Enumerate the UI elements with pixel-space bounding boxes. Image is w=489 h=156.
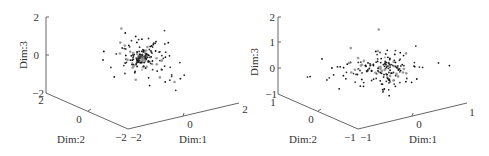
data-point xyxy=(386,67,388,69)
data-point xyxy=(383,69,386,72)
data-point xyxy=(179,62,181,64)
data-point xyxy=(129,51,132,54)
data-point xyxy=(147,60,149,62)
x-axis-label: Dim:1 xyxy=(179,133,207,145)
data-point xyxy=(124,32,126,34)
data-point xyxy=(398,69,400,71)
data-point xyxy=(422,67,424,69)
data-point xyxy=(359,70,361,72)
data-point xyxy=(375,51,377,53)
data-point xyxy=(380,62,382,64)
data-point xyxy=(384,65,386,67)
data-point xyxy=(419,66,421,68)
data-point xyxy=(355,74,357,76)
x-axis xyxy=(358,103,467,129)
data-point xyxy=(415,45,417,47)
data-point xyxy=(139,53,141,55)
data-point xyxy=(103,51,105,53)
data-point xyxy=(154,42,156,44)
y-axis xyxy=(278,94,358,129)
z-tick: 0 xyxy=(270,62,276,74)
data-point xyxy=(173,81,176,84)
data-point xyxy=(171,74,173,76)
x-axis-label: Dim:1 xyxy=(409,133,437,145)
data-point xyxy=(367,62,369,64)
data-point xyxy=(146,53,148,55)
data-point xyxy=(382,91,384,93)
data-point xyxy=(132,57,134,59)
data-point xyxy=(155,41,157,43)
data-point xyxy=(169,55,171,57)
data-point xyxy=(326,79,328,81)
data-point xyxy=(403,68,406,71)
data-point xyxy=(361,64,364,67)
data-point xyxy=(115,53,117,55)
data-point xyxy=(382,83,384,85)
data-point xyxy=(129,46,131,48)
data-point xyxy=(438,62,440,64)
data-point xyxy=(143,49,145,51)
data-point xyxy=(377,50,380,53)
y-tick: 0 xyxy=(76,113,82,125)
y-axis-label: Dim:2 xyxy=(289,133,317,145)
data-point xyxy=(388,89,390,91)
data-point xyxy=(139,62,141,64)
data-point xyxy=(373,78,375,80)
data-point xyxy=(148,54,150,56)
data-point xyxy=(169,66,171,68)
data-point xyxy=(389,69,391,71)
data-point xyxy=(331,67,333,69)
data-point xyxy=(125,55,127,57)
data-point xyxy=(152,46,154,48)
data-point xyxy=(113,76,115,78)
data-point xyxy=(380,72,382,74)
data-point xyxy=(357,62,359,64)
z-axis-label: Dim:3 xyxy=(248,47,260,76)
data-point xyxy=(123,65,125,67)
data-point xyxy=(136,66,138,68)
data-point xyxy=(145,59,147,61)
data-point xyxy=(333,74,335,76)
x-axis xyxy=(128,103,239,129)
data-point xyxy=(151,51,153,53)
y-tick: 1 xyxy=(270,96,276,108)
z-tick: 2 xyxy=(34,11,40,23)
data-point xyxy=(399,71,401,73)
data-point xyxy=(379,80,381,82)
data-point xyxy=(123,44,126,47)
x-tick: −1 xyxy=(360,131,372,143)
data-point xyxy=(119,41,122,44)
data-point xyxy=(120,27,123,30)
data-point xyxy=(416,78,418,80)
data-point xyxy=(383,76,385,78)
data-point xyxy=(164,43,166,45)
scatter-points xyxy=(102,27,185,91)
data-point xyxy=(383,88,385,90)
data-point xyxy=(158,51,160,53)
data-point xyxy=(339,66,341,68)
data-point xyxy=(141,38,143,40)
data-point xyxy=(380,58,382,60)
data-point xyxy=(376,54,378,56)
data-point xyxy=(359,85,361,87)
data-point xyxy=(165,51,167,53)
figure: 2 0 −2 Dim:3 2 0 −2 Dim:2 −2 0 2 Dim:1 2… xyxy=(0,0,489,156)
data-point xyxy=(401,64,403,66)
data-point xyxy=(145,55,147,57)
data-point xyxy=(405,52,408,55)
data-point xyxy=(131,66,134,69)
data-point xyxy=(345,78,347,80)
data-point xyxy=(141,58,143,60)
data-point xyxy=(395,62,397,64)
data-point xyxy=(134,70,136,72)
data-point xyxy=(145,49,148,52)
data-point xyxy=(148,38,150,40)
data-point xyxy=(124,73,126,75)
data-point xyxy=(141,62,143,64)
data-point xyxy=(121,47,123,49)
data-point xyxy=(391,72,393,74)
data-point xyxy=(348,62,351,65)
z-axis-label: Dim:3 xyxy=(17,40,29,69)
data-point xyxy=(125,62,127,64)
data-point xyxy=(414,62,416,64)
